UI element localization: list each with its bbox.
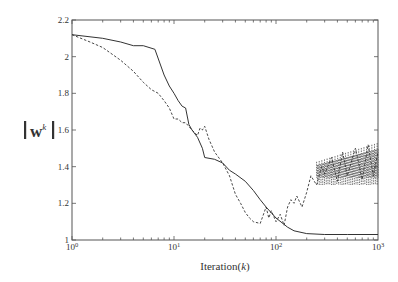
dashed-series-line (72, 35, 378, 226)
line-chart: 100101102103 11.21.41.61.822.2 Iteration… (0, 0, 398, 282)
solid-series-line (72, 35, 378, 235)
x-tick-label: 103 (372, 241, 384, 252)
x-axis-title: Iteration(k) (200, 260, 250, 273)
x-tick-label: 102 (270, 241, 282, 252)
y-tick-label: 1 (65, 235, 70, 245)
y-tick-label: 2.2 (58, 15, 69, 25)
y-axis-label: wk (24, 121, 54, 141)
y-tick-label: 1.4 (58, 162, 70, 172)
norm-bar-right (52, 121, 54, 139)
x-axis-ticks: 100101102103 (66, 20, 384, 252)
y-tick-label: 1.2 (58, 198, 69, 208)
plot-frame (72, 20, 378, 240)
x-tick-label: 101 (168, 241, 180, 252)
y-axis-title: wk (30, 122, 47, 141)
series-layer (72, 35, 378, 235)
plot-border (72, 20, 378, 240)
y-tick-label: 2 (65, 52, 70, 62)
y-axis-ticks: 11.21.41.61.822.2 (58, 15, 378, 245)
norm-bar-left (24, 121, 26, 139)
y-tick-label: 1.6 (58, 125, 70, 135)
y-tick-label: 1.8 (58, 88, 70, 98)
x-axis-label: Iteration(k) (200, 260, 250, 273)
